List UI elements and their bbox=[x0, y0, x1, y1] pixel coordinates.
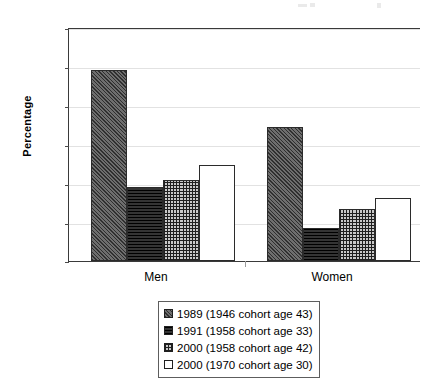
category-separator bbox=[245, 261, 246, 267]
legend-item[interactable]: 1991 (1958 cohort age 33) bbox=[164, 322, 313, 339]
legend: 1989 (1946 cohort age 43) 1991 (1958 coh… bbox=[158, 301, 320, 378]
category-label-men: Men bbox=[96, 270, 216, 284]
legend-item[interactable]: 2000 (1970 cohort age 30) bbox=[164, 356, 313, 373]
legend-item[interactable]: 2000 (1958 cohort age 42) bbox=[164, 339, 313, 356]
ytick-mark-0 bbox=[65, 262, 69, 263]
plot-area: 60 50 40 30 20 10 0 bbox=[68, 28, 420, 262]
y-axis-title: Percentage bbox=[21, 66, 33, 186]
bar-chart-figure: Percentage 60 50 40 30 20 10 0 bbox=[0, 0, 439, 389]
category-label-women: Women bbox=[272, 270, 392, 284]
bar-men-2000-age30[interactable] bbox=[199, 165, 235, 261]
bar-men-2000-age42[interactable] bbox=[163, 180, 199, 261]
bar-men-1989[interactable] bbox=[91, 70, 127, 261]
legend-swatch-solid-dark-icon bbox=[164, 326, 173, 335]
scan-artifact bbox=[377, 3, 381, 8]
legend-swatch-diagonal-hatch-icon bbox=[164, 309, 173, 318]
legend-swatch-cross-hatch-icon bbox=[164, 343, 173, 352]
bar-women-1989[interactable] bbox=[267, 127, 303, 261]
legend-item[interactable]: 1989 (1946 cohort age 43) bbox=[164, 305, 313, 322]
bar-women-2000-age30[interactable] bbox=[375, 198, 411, 261]
legend-label: 1989 (1946 cohort age 43) bbox=[177, 308, 313, 320]
bar-group-women bbox=[245, 29, 421, 261]
legend-label: 1991 (1958 cohort age 33) bbox=[177, 325, 313, 337]
legend-swatch-white-icon bbox=[164, 360, 173, 369]
bar-women-2000-age42[interactable] bbox=[339, 209, 375, 261]
bar-group-men bbox=[69, 29, 245, 261]
legend-label: 2000 (1970 cohort age 30) bbox=[177, 359, 313, 371]
scan-artifact bbox=[298, 4, 307, 7]
bar-women-1991[interactable] bbox=[303, 228, 339, 261]
scan-artifact bbox=[310, 3, 315, 7]
legend-label: 2000 (1958 cohort age 42) bbox=[177, 342, 313, 354]
bar-men-1991[interactable] bbox=[127, 187, 163, 261]
